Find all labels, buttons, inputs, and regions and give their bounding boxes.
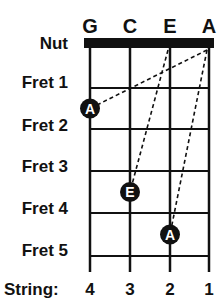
note-dot-a-1: A [80, 99, 100, 119]
string-number-3: 3 [125, 280, 134, 299]
note-dot-label: E [125, 184, 134, 200]
fret-label-3: Fret 3 [22, 157, 68, 176]
dashed-link-3 [170, 50, 207, 235]
fretboard-diagram: G C E A Nut Fret 1 Fret 2 Fret 3 Fret 4 … [0, 0, 224, 306]
note-dot-label: A [165, 227, 175, 243]
fret-label-1: Fret 1 [22, 73, 68, 92]
fret-label-5: Fret 5 [22, 241, 68, 260]
nut-bar [84, 38, 214, 48]
dashed-link-1 [90, 50, 207, 109]
string-label: String: [4, 280, 59, 299]
string-name-g: G [82, 15, 98, 37]
note-dot-a-3: A [160, 225, 180, 245]
fret-label-4: Fret 4 [22, 199, 69, 218]
string-number-1: 1 [204, 280, 213, 299]
dashed-links [90, 50, 207, 235]
string-name-a: A [202, 15, 216, 37]
note-dot-e-2: E [120, 182, 140, 202]
string-name-c: C [123, 15, 137, 37]
note-dot-label: A [85, 101, 95, 117]
string-number-4: 4 [85, 280, 95, 299]
fret-grid [84, 38, 214, 272]
fret-label-2: Fret 2 [22, 116, 68, 135]
string-number-2: 2 [165, 280, 174, 299]
string-name-e: E [163, 15, 176, 37]
nut-label: Nut [40, 34, 69, 53]
